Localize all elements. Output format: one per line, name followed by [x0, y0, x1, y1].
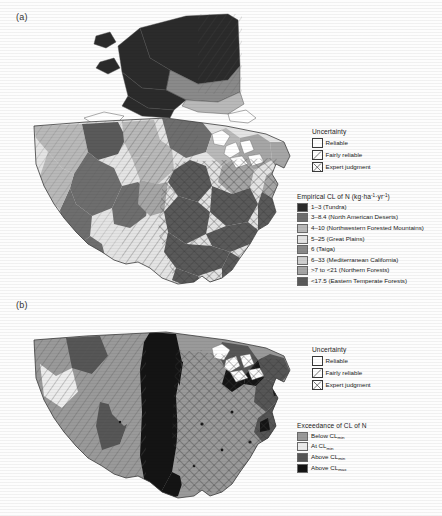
exceedance-legend-item-label: At CLmin: [311, 443, 334, 450]
swatch-fairly-reliable-icon: [312, 150, 323, 161]
uncertainty-item-expert-judgment-a: Expert judgment: [312, 162, 371, 173]
uncertainty-legend-b: Uncertainty Reliable Fairly reliable Exp…: [312, 346, 371, 392]
exceedance-legend-title: Exceedance of CL of N: [297, 422, 367, 429]
empirical-cl-legend: Empirical CL of N (kg·ha-1·yr-1) 1–3 (Tu…: [297, 193, 424, 288]
empirical-cl-legend-item: 3–8.4 (North American Deserts): [297, 213, 424, 222]
legend-color-swatch: [297, 266, 308, 275]
empirical-cl-legend-item-label: >7 to <21 (Northern Forests): [311, 267, 389, 274]
swatch-reliable-icon: [312, 356, 323, 367]
empirical-cl-legend-item: <17.5 (Eastern Temperate Forests): [297, 277, 424, 286]
uncertainty-item-label: Reliable: [326, 140, 348, 147]
empirical-cl-legend-item: 1–3 (Tundra): [297, 203, 424, 212]
exceedance-legend-item: At CLmin: [297, 442, 367, 451]
alaska-inset-map-a: [78, 6, 263, 124]
swatch-expert-judgment-icon: [312, 162, 323, 173]
exceedance-label-subscript: min: [337, 435, 344, 440]
swatch-expert-judgment-icon: [312, 380, 323, 391]
legend-color-swatch: [297, 245, 308, 254]
empirical-cl-legend-item: 6 (Taiga): [297, 245, 424, 254]
uncertainty-legend-b-title: Uncertainty: [312, 346, 371, 353]
uncertainty-item-label: Expert judgment: [326, 164, 371, 171]
panel-b-label: (b): [16, 300, 28, 310]
legend-color-swatch: [297, 432, 308, 441]
exceedance-label-prefix: At CL: [311, 442, 326, 449]
panel-b: (b): [0, 296, 442, 516]
legend-color-swatch: [297, 442, 308, 451]
legend-color-swatch: [297, 213, 308, 222]
empirical-cl-legend-item-label: 4–10 (Northwestern Forested Mountains): [311, 225, 424, 232]
legend-color-swatch: [297, 256, 308, 265]
legend-color-swatch: [297, 464, 308, 473]
empirical-cl-legend-item-label: 5–25 (Great Plains): [311, 236, 365, 243]
exceedance-label-prefix: Above CL: [311, 464, 338, 471]
uncertainty-legend-a: Uncertainty Reliable Fairly reliable Exp…: [312, 128, 371, 174]
exceedance-label-subscript: min: [326, 446, 333, 451]
exceedance-label-subscript: max: [338, 467, 346, 472]
conus-map-a: [26, 112, 304, 294]
exceedance-legend-item: Above CLmax: [297, 464, 367, 473]
uncertainty-item-label: Fairly reliable: [326, 370, 363, 377]
uncertainty-item-label: Expert judgment: [326, 382, 371, 389]
legend-color-swatch: [297, 235, 308, 244]
uncertainty-item-label: Reliable: [326, 358, 348, 365]
swatch-reliable-icon: [312, 138, 323, 149]
exceedance-legend-item-label: Above CLmin: [311, 454, 345, 461]
exceedance-legend-item: Above CLmin: [297, 453, 367, 462]
empirical-cl-legend-item-label: 1–3 (Tundra): [311, 204, 347, 211]
uncertainty-item-fairly-reliable-b: Fairly reliable: [312, 368, 371, 379]
uncertainty-item-label: Fairly reliable: [326, 152, 363, 159]
exceedance-label-prefix: Above CL: [311, 453, 338, 460]
uncertainty-item-expert-judgment-b: Expert judgment: [312, 380, 371, 391]
legend-title-sup2: -1: [383, 193, 387, 198]
empirical-cl-legend-item: 5–25 (Great Plains): [297, 235, 424, 244]
legend-title-prefix: Empirical CL of N (kg·ha: [297, 193, 371, 200]
exceedance-legend-item: Below CLmin: [297, 432, 367, 441]
uncertainty-legend-a-title: Uncertainty: [312, 128, 371, 135]
exceedance-legend-item-label: Above CLmax: [311, 465, 346, 472]
exceedance-label-prefix: Below CL: [311, 432, 337, 439]
exceedance-legend-item-label: Below CLmin: [311, 433, 345, 440]
legend-color-swatch: [297, 453, 308, 462]
uncertainty-item-reliable-b: Reliable: [312, 356, 371, 367]
exceedance-label-subscript: min: [338, 456, 345, 461]
empirical-cl-legend-item-label: 6 (Taiga): [311, 246, 335, 253]
panel-a: (a): [0, 0, 442, 300]
exceedance-legend: Exceedance of CL of N Below CLminAt CLmi…: [297, 422, 367, 474]
uncertainty-item-fairly-reliable-a: Fairly reliable: [312, 150, 371, 161]
legend-color-swatch: [297, 277, 308, 286]
uncertainty-item-reliable-a: Reliable: [312, 138, 371, 149]
swatch-fairly-reliable-icon: [312, 368, 323, 379]
legend-color-swatch: [297, 224, 308, 233]
empirical-cl-legend-item: 4–10 (Northwestern Forested Mountains): [297, 224, 424, 233]
empirical-cl-legend-title: Empirical CL of N (kg·ha-1·yr-1): [297, 193, 424, 200]
empirical-cl-legend-item: 6–33 (Mediterranean California): [297, 256, 424, 265]
panel-a-label: (a): [16, 12, 28, 22]
conus-map-b: [26, 326, 304, 506]
empirical-cl-legend-item: >7 to <21 (Northern Forests): [297, 266, 424, 275]
empirical-cl-legend-item-label: <17.5 (Eastern Temperate Forests): [311, 278, 407, 285]
empirical-cl-legend-item-label: 6–33 (Mediterranean California): [311, 257, 398, 264]
legend-color-swatch: [297, 203, 308, 212]
legend-title-sup1: -1: [371, 193, 375, 198]
empirical-cl-legend-item-label: 3–8.4 (North American Deserts): [311, 214, 398, 221]
